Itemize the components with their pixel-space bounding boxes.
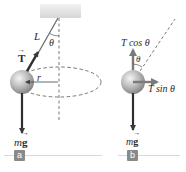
panel-a xyxy=(10,4,101,133)
angle-arc xyxy=(50,34,60,37)
angle-label-a: θ xyxy=(49,38,54,48)
weight-label-a: m→g xyxy=(14,137,27,148)
vector-arrow-glyph: → xyxy=(22,130,29,137)
vector-arrow-glyph: → xyxy=(133,130,140,137)
weight-label-b: m→g xyxy=(126,137,138,147)
mass-symbol: m xyxy=(14,136,22,148)
panel-b-tag: b xyxy=(127,150,138,161)
angle-label-b: θ xyxy=(136,55,140,64)
string-direction-dashed xyxy=(134,19,175,80)
t-sin-theta-label: T sin θ xyxy=(148,84,175,94)
g-text-b: g xyxy=(133,136,138,147)
angle-arc-b xyxy=(133,64,142,67)
vector-arrow-glyph: → xyxy=(18,47,25,54)
ceiling-support xyxy=(40,4,81,18)
t-cos-theta-label: T cos θ xyxy=(121,38,150,48)
panel-b xyxy=(121,19,175,130)
panel-a-tag: a xyxy=(14,150,25,161)
radius-label: r xyxy=(37,73,41,83)
gravity-symbol-b: →g xyxy=(133,136,138,147)
conical-pendulum-diagram: → T L θ r m→g T cos θ θ T sin θ m→g a b xyxy=(0,0,186,172)
tension-label: → T xyxy=(18,53,25,64)
g-text: g xyxy=(22,136,28,148)
gravity-symbol: →g xyxy=(22,136,28,148)
length-label: L xyxy=(34,31,40,42)
